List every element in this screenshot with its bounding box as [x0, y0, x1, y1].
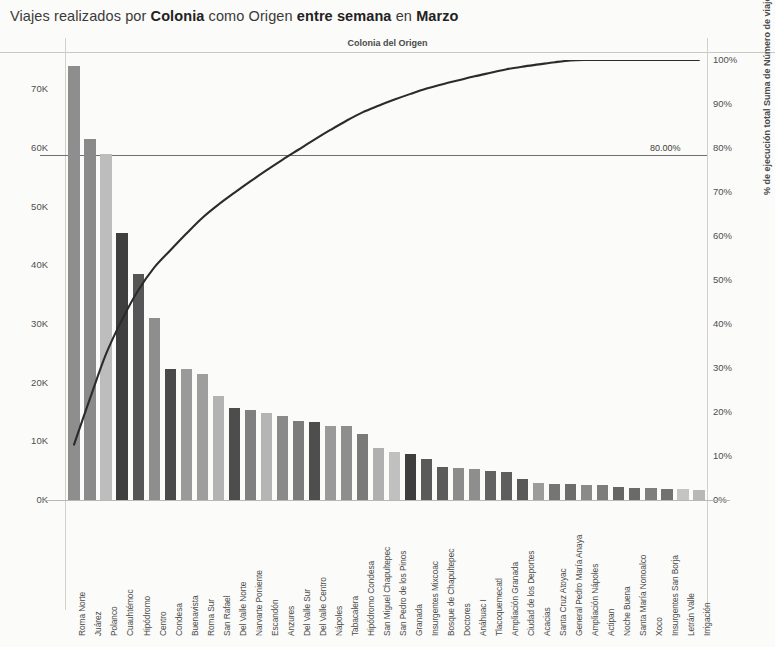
x-tick-label: General Pedro María Anaya — [574, 535, 584, 636]
bar[interactable] — [549, 484, 560, 500]
x-axis-labels: Roma NorteJuárezPolancoCuauhtémocHipódro… — [66, 504, 707, 639]
right-tick-label: 70% — [713, 186, 732, 197]
bar[interactable] — [693, 490, 704, 500]
bar[interactable] — [373, 448, 384, 500]
title-part-2: como Origen — [204, 8, 296, 24]
bar[interactable] — [325, 426, 336, 501]
left-tick-label: 20K — [31, 377, 48, 388]
x-tick-label: Santa Cruz Atoyac — [558, 568, 568, 636]
x-tick-label: Narvarte Poniente — [254, 570, 264, 636]
bar[interactable] — [116, 233, 127, 500]
x-tick-label: Anzures — [286, 606, 296, 636]
x-tick-label: Noche Buena — [622, 586, 632, 636]
bar[interactable] — [597, 485, 608, 500]
title-part-1: Viajes realizados por — [10, 8, 151, 24]
title-bold-entre-semana: entre semana — [297, 8, 392, 24]
x-tick-label: Centro — [158, 611, 168, 636]
x-tick-label: Insurgentes Mixcoac — [430, 561, 440, 636]
x-tick-label: San Miguel Chapultepec — [382, 547, 392, 636]
x-tick-label: Del Valle Centro — [318, 577, 328, 636]
bar[interactable] — [421, 459, 432, 500]
bar[interactable] — [533, 483, 544, 500]
chart-subtitle: Colonia del Origen — [0, 38, 775, 48]
left-tick-label: 70K — [31, 83, 48, 94]
right-tick-label: 50% — [713, 274, 732, 285]
bar[interactable] — [213, 396, 224, 500]
bar-series — [66, 60, 707, 500]
x-tick-label: Condesa — [174, 603, 184, 636]
bar[interactable] — [613, 487, 624, 500]
left-tick-label: 50K — [31, 201, 48, 212]
x-tick-label: Santa María Nonoalco — [638, 555, 648, 636]
bar[interactable] — [517, 479, 528, 500]
right-tick-label: 30% — [713, 362, 732, 373]
x-tick-label: Roma Norte — [77, 592, 87, 636]
x-tick-label: Del Valle Norte — [238, 582, 248, 636]
x-tick-label: Bosque de Chapultepec — [446, 549, 456, 636]
x-tick-label: Anáhuac I — [478, 599, 488, 636]
bar[interactable] — [309, 422, 320, 500]
x-tick-label: Hipódromo Condesa — [366, 561, 376, 636]
x-tick-label: Cuauhtémoc — [125, 590, 135, 637]
x-tick-label: Granada — [414, 604, 424, 636]
bar[interactable] — [84, 139, 95, 500]
x-tick-label: Nápoles — [334, 606, 344, 636]
bar[interactable] — [68, 66, 79, 500]
bar[interactable] — [293, 421, 304, 500]
x-tick-label: Juárez — [93, 611, 103, 636]
x-tick-label: Doctores — [462, 603, 472, 636]
top-divider — [0, 52, 775, 53]
bar[interactable] — [341, 426, 352, 500]
bar[interactable] — [453, 468, 464, 500]
bar[interactable] — [677, 489, 688, 500]
title-bold-colonia: Colonia — [151, 8, 205, 24]
bar[interactable] — [197, 374, 208, 500]
right-tick-label: 90% — [713, 98, 732, 109]
x-tick-label: Irrigación — [702, 603, 712, 636]
bar[interactable] — [100, 154, 111, 500]
bar[interactable] — [181, 369, 192, 500]
plot-area — [66, 60, 707, 500]
x-tick-label: Hipódromo — [142, 596, 152, 636]
bar[interactable] — [357, 434, 368, 500]
x-tick-label: Tabacalera — [350, 596, 360, 636]
x-tick-label: Del Valle Sur — [302, 589, 312, 636]
x-tick-label: Ampliación Nápoles — [590, 564, 600, 636]
bar[interactable] — [389, 452, 400, 500]
bar[interactable] — [149, 318, 160, 500]
right-tick-label: 40% — [713, 318, 732, 329]
bar[interactable] — [261, 413, 272, 500]
bar[interactable] — [133, 274, 144, 500]
bar[interactable] — [645, 488, 656, 500]
x-tick-label: Ciudad de los Deportes — [526, 551, 536, 636]
x-tick-label: Insurgentes San Borja — [670, 555, 680, 636]
bar[interactable] — [229, 408, 240, 500]
right-tick-label: 80% — [713, 142, 732, 153]
left-tick-label: 30K — [31, 318, 48, 329]
bar[interactable] — [661, 489, 672, 500]
x-tick-label: Escandón — [270, 600, 280, 636]
bar[interactable] — [405, 454, 416, 500]
bar[interactable] — [277, 416, 288, 500]
right-tick-label: 10% — [713, 450, 732, 461]
bar[interactable] — [485, 471, 496, 500]
bar[interactable] — [501, 472, 512, 500]
chart-page: Viajes realizados por Colonia como Orige… — [0, 0, 775, 647]
x-axis-baseline — [40, 500, 730, 501]
right-tick-label: 100% — [713, 54, 737, 65]
bar[interactable] — [469, 469, 480, 500]
left-tick-label: 10K — [31, 435, 48, 446]
right-axis-title: % de ejecución total Suma de Número de v… — [762, 0, 772, 195]
right-tick-label: 20% — [713, 406, 732, 417]
x-tick-label: Acacias — [542, 607, 552, 636]
bar[interactable] — [565, 484, 576, 500]
bar[interactable] — [245, 410, 256, 500]
x-tick-label: Buenavista — [190, 596, 200, 636]
x-tick-label: Roma Sur — [206, 599, 216, 636]
x-tick-label: Polanco — [109, 606, 119, 636]
bar[interactable] — [437, 467, 448, 500]
bar[interactable] — [629, 488, 640, 500]
bar[interactable] — [165, 369, 176, 500]
x-tick-label: Letrán Valle — [686, 593, 696, 636]
bar[interactable] — [581, 485, 592, 500]
